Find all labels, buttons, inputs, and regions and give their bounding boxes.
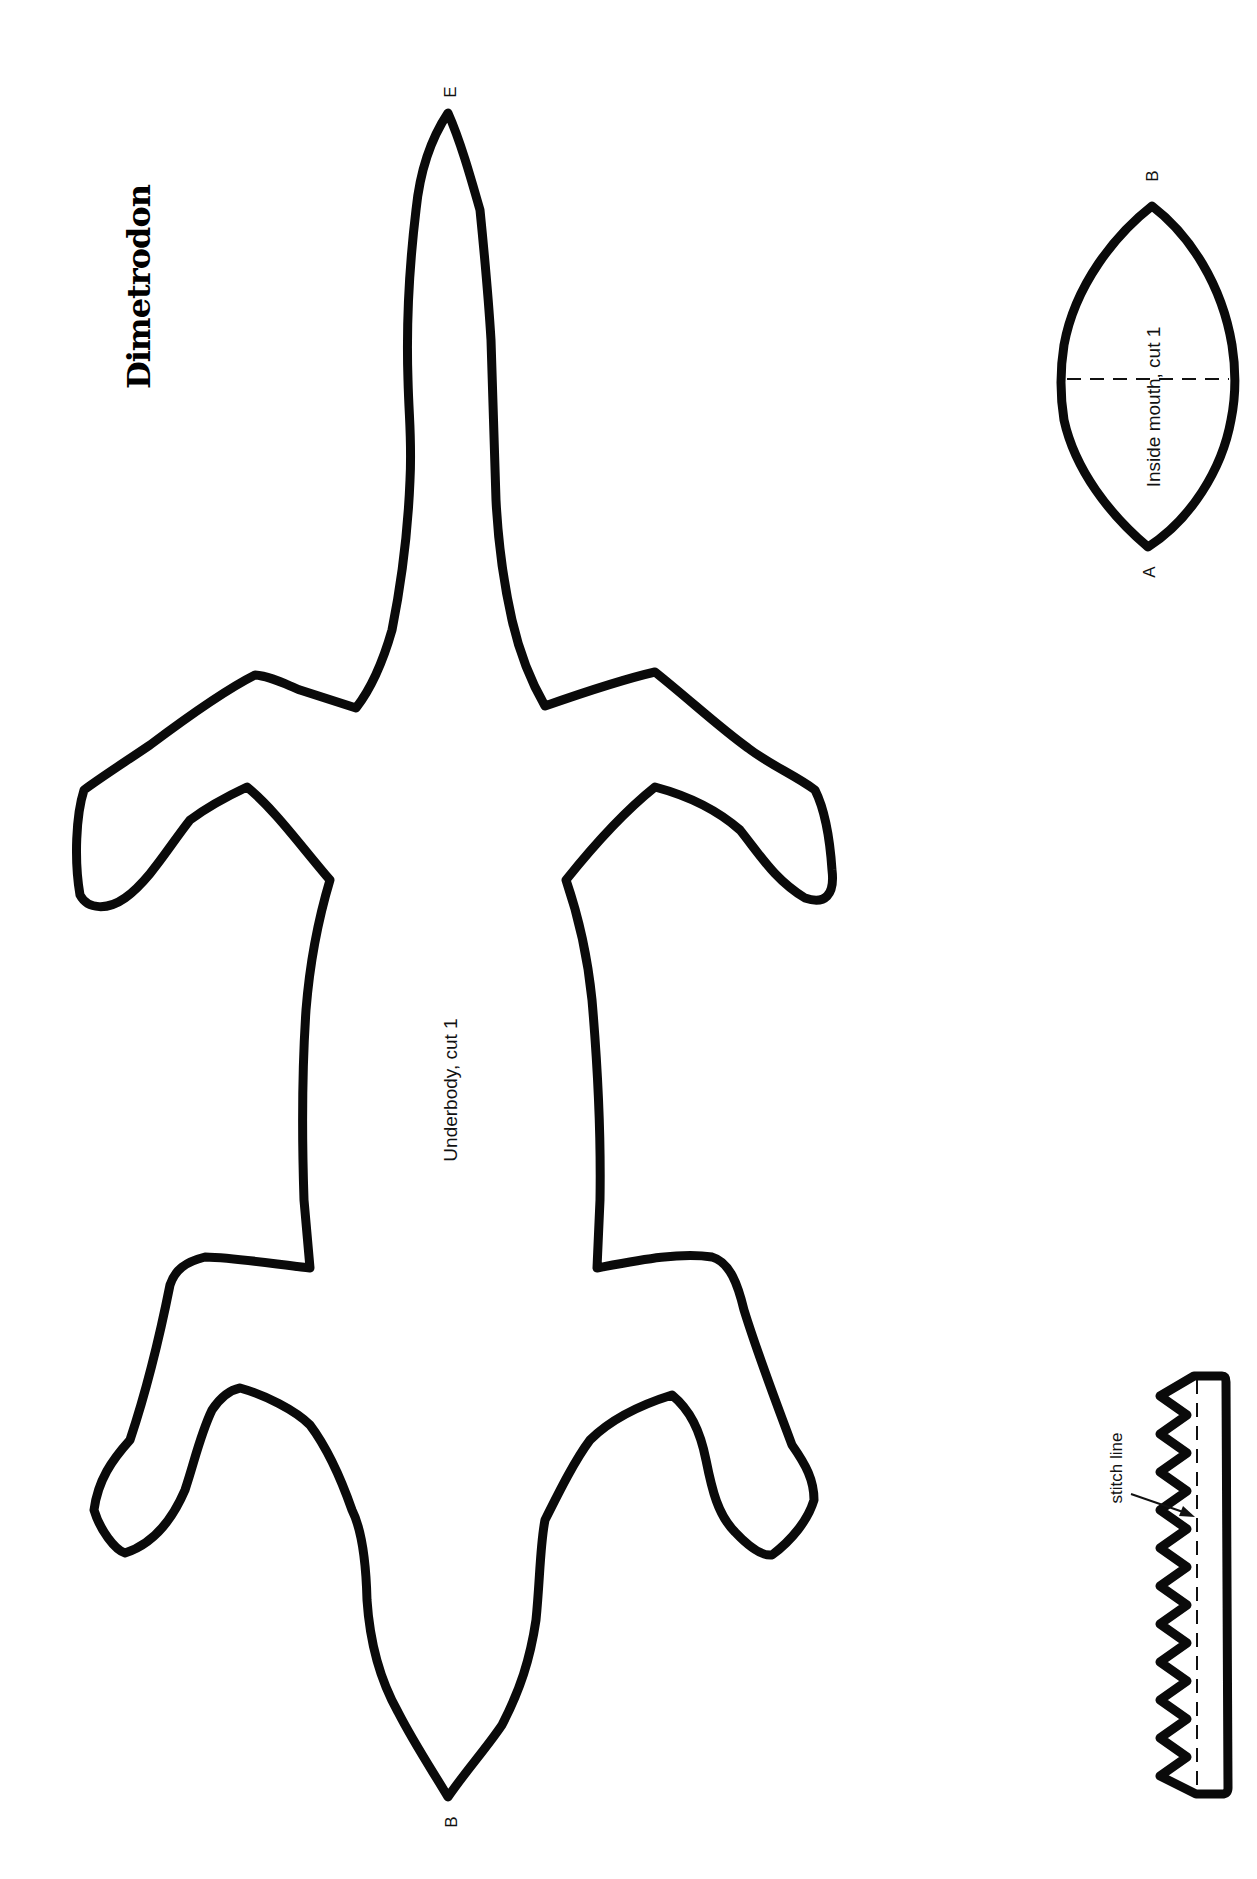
pattern-drawing: [0, 0, 1257, 1879]
teeth-strip-outline: [1160, 1376, 1228, 1794]
stitch-line-label: stitch line: [1108, 1433, 1125, 1504]
point-label-b-head: B: [443, 1816, 460, 1827]
inside-mouth-label: Inside mouth, cut 1: [1144, 327, 1163, 488]
underbody-label: Underbody, cut 1: [441, 1018, 460, 1161]
point-label-b-mouth: B: [1144, 170, 1161, 181]
point-label-a: A: [1141, 566, 1158, 577]
pattern-sheet: Dimetrodon Underbody, cut 1 E B Inside m…: [0, 0, 1257, 1879]
pattern-title: Dimetrodon: [123, 185, 155, 389]
underbody-outline: [77, 113, 833, 1797]
point-label-e: E: [442, 86, 459, 97]
